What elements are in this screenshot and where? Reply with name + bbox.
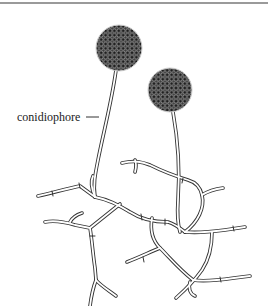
spore-head-left [96, 25, 142, 71]
spore-head-right [148, 68, 192, 112]
conidiophore-label: conidiophore [17, 110, 80, 124]
hyphae-network [38, 70, 250, 306]
mycelium-drawing [0, 0, 268, 306]
conidiophore-illustration: conidiophore [0, 0, 268, 306]
